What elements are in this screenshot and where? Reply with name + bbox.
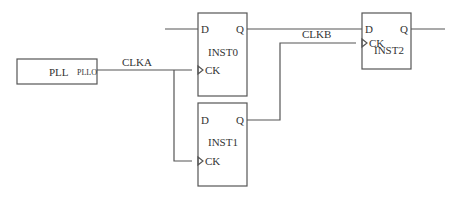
pll-label: PLL — [49, 66, 69, 78]
inst1-d-pin: D — [201, 114, 209, 126]
net-clkb[interactable]: CLKB — [247, 28, 356, 120]
inst2-flipflop[interactable]: D Q INST2 CK — [362, 13, 445, 69]
inst0-ck-pin: CK — [205, 64, 220, 76]
clka-label: CLKA — [122, 56, 152, 68]
inst1-ck-pin: CK — [205, 155, 220, 167]
inst0-d-pin: D — [201, 23, 209, 35]
inst1-q-pin: Q — [236, 114, 244, 126]
net-clka[interactable]: CLKA — [97, 56, 192, 161]
inst0-label: INST0 — [208, 46, 238, 58]
inst2-d-pin: D — [365, 23, 373, 35]
pll-block[interactable]: PLL PLLO — [17, 59, 97, 84]
inst1-label: INST1 — [208, 136, 238, 148]
inst0-q-pin: Q — [236, 23, 244, 35]
inst0-flipflop[interactable]: D Q INST0 CK — [165, 13, 247, 96]
inst2-q-pin: Q — [400, 23, 408, 35]
pll-output-pin-label: PLLO — [77, 68, 97, 77]
inst2-ck-pin: CK — [369, 37, 384, 49]
inst1-flipflop[interactable]: D Q INST1 CK — [198, 103, 247, 186]
schematic-canvas: PLL PLLO CLKA D Q INST0 CK D Q INST1 CK … — [0, 0, 456, 198]
clka-wire-branch — [174, 70, 192, 161]
clkb-wire — [247, 43, 356, 120]
clkb-label: CLKB — [302, 28, 331, 40]
